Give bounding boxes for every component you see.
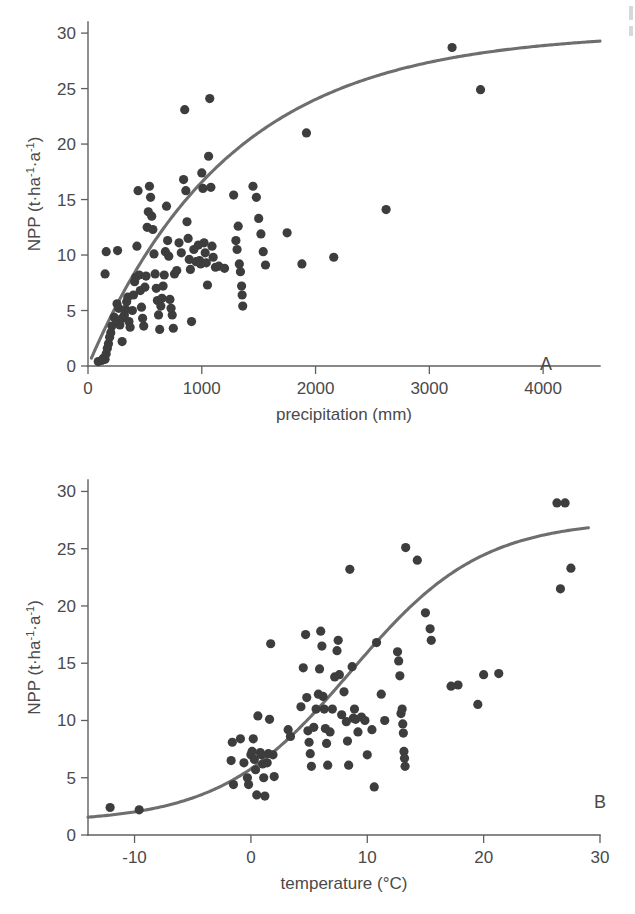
data-point [335, 670, 344, 679]
data-point [270, 772, 279, 781]
data-point [236, 267, 245, 276]
figure-container: 05101520253001000200030004000precipitati… [0, 0, 635, 914]
data-point [157, 294, 166, 303]
data-point [453, 680, 462, 689]
data-point [370, 782, 379, 791]
data-point-group [94, 43, 485, 366]
data-point [179, 175, 188, 184]
x-tick-label: 0 [83, 379, 92, 398]
data-point [311, 704, 320, 713]
data-point [556, 584, 565, 593]
data-point [494, 669, 503, 678]
data-point [261, 260, 270, 269]
data-point [479, 670, 488, 679]
data-point [146, 193, 155, 202]
data-point [187, 317, 196, 326]
data-point [476, 85, 485, 94]
y-axis-title: NPP (t·ha-1·a-1) [24, 600, 44, 715]
data-point [316, 627, 325, 636]
data-point [560, 498, 569, 507]
panel-a-plot: 05101520253001000200030004000precipitati… [0, 0, 635, 455]
data-point [266, 639, 275, 648]
data-point [323, 761, 332, 770]
x-tick-label: 3000 [410, 379, 448, 398]
y-tick-label: 15 [57, 654, 76, 673]
data-point [207, 242, 216, 251]
data-point [102, 247, 111, 256]
data-point [286, 732, 295, 741]
data-point [302, 128, 311, 137]
data-point [315, 664, 324, 673]
data-point [247, 747, 256, 756]
data-point [398, 719, 407, 728]
data-point [133, 186, 142, 195]
x-tick-label: 30 [591, 848, 610, 867]
data-point [325, 727, 334, 736]
data-point [339, 687, 348, 696]
data-point [163, 236, 172, 245]
y-axis-title: NPP (t·ha-1·a-1) [24, 137, 44, 252]
data-point [394, 656, 403, 665]
data-point [343, 737, 352, 746]
data-point [199, 238, 208, 247]
y-tick-label: 0 [67, 357, 76, 376]
data-point [253, 711, 262, 720]
panel-letter: B [594, 792, 606, 812]
data-point [380, 716, 389, 725]
y-tick-label: 10 [57, 711, 76, 730]
data-point [145, 182, 154, 191]
data-point [393, 647, 402, 656]
data-point [265, 715, 274, 724]
data-point [399, 728, 408, 737]
page-edge-artifact-bottom [629, 26, 633, 36]
data-point [184, 234, 193, 243]
data-point [220, 264, 229, 273]
data-point [209, 253, 218, 262]
data-point [228, 738, 237, 747]
data-point [198, 184, 207, 193]
data-point [307, 762, 316, 771]
data-point [238, 301, 247, 310]
y-tick-label: 30 [57, 482, 76, 501]
data-point [126, 323, 135, 332]
data-point [204, 152, 213, 161]
data-point [348, 662, 357, 671]
data-point [283, 228, 292, 237]
x-tick-label: 4000 [524, 379, 562, 398]
data-point [160, 270, 169, 279]
y-tick-label: 10 [57, 246, 76, 265]
data-point [427, 636, 436, 645]
data-point [260, 791, 269, 800]
y-tick-label: 20 [57, 597, 76, 616]
data-point [334, 636, 343, 645]
data-point [566, 564, 575, 573]
data-point [244, 780, 253, 789]
page-edge-artifact-top [629, 6, 633, 20]
data-point [400, 754, 409, 763]
data-point [156, 301, 165, 310]
data-point [182, 217, 191, 226]
y-tick-label: 0 [67, 826, 76, 845]
data-point [252, 193, 261, 202]
data-point [151, 269, 160, 278]
data-point [141, 272, 150, 281]
data-point [301, 630, 310, 639]
x-tick-label: 0 [246, 848, 255, 867]
panel-a: 05101520253001000200030004000precipitati… [0, 0, 635, 455]
data-point [197, 168, 206, 177]
data-point [372, 638, 381, 647]
data-point [235, 259, 244, 268]
data-point [296, 702, 305, 711]
data-point [229, 780, 238, 789]
y-tick-label: 20 [57, 135, 76, 154]
data-point [447, 43, 456, 52]
data-point [473, 700, 482, 709]
data-point [332, 646, 341, 655]
data-point [113, 246, 122, 255]
data-point [132, 242, 141, 251]
data-point [398, 704, 407, 713]
data-point [249, 734, 258, 743]
data-point [135, 805, 144, 814]
data-point [426, 624, 435, 633]
data-point [180, 105, 189, 114]
